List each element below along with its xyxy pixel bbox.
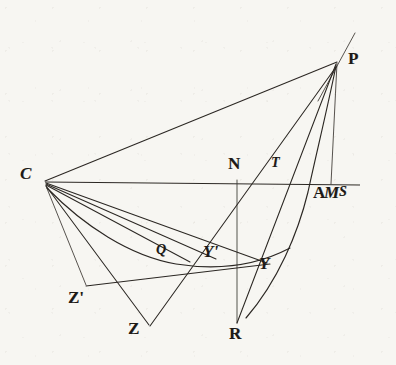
label-Zprime: Z': [68, 289, 84, 306]
segment-Z-P: [150, 67, 336, 326]
segment-Zprime-Y: [86, 264, 270, 286]
segment-C-P: [45, 62, 337, 181]
label-N: N: [228, 155, 240, 172]
label-S: S: [339, 185, 347, 199]
segment-C-Q: [46, 185, 190, 262]
figure-root: P C N T A M S Q Y' Y Z' Z R: [0, 0, 396, 365]
label-M: M: [324, 184, 339, 201]
label-T: T: [271, 156, 280, 170]
segment-P-M: [331, 63, 337, 184]
label-R: R: [229, 325, 241, 342]
label-Q: Q: [156, 243, 166, 257]
label-P: P: [348, 50, 358, 67]
segment-C-Zprime: [46, 186, 86, 285]
label-C: C: [20, 165, 31, 182]
segment-C-Yprime: [46, 184, 216, 259]
label-Yprime: Y': [203, 243, 218, 260]
label-Y: Y: [259, 255, 269, 272]
label-Z: Z: [128, 320, 139, 337]
